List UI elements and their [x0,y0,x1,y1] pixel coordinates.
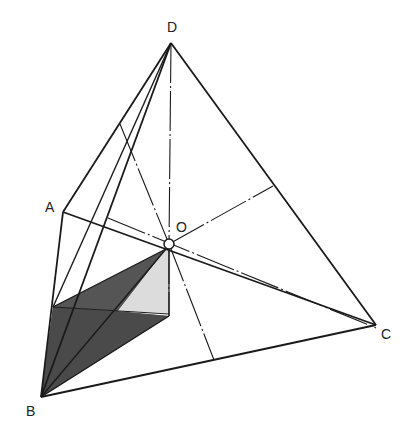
label-C: C [381,326,391,342]
label-D: D [167,19,177,35]
label-B: B [26,403,35,419]
label-O: O [176,219,187,235]
shaded-prism [41,249,169,397]
edge-DC [171,43,376,325]
line-D-O [169,43,171,244]
tetrahedron-diagram: D A O B C [0,0,412,434]
edge-DA [63,43,171,212]
line-O-DCmid [169,186,273,244]
line-O-BCmid [169,244,214,360]
label-A: A [45,199,55,215]
center-point-O [164,239,174,249]
